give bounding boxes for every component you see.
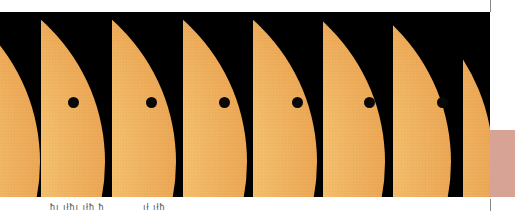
page-divider-line-bottom: [490, 199, 491, 211]
transit-frame-7: [393, 12, 463, 197]
venus-disk: [68, 97, 79, 108]
sun-disk: [112, 12, 176, 197]
sun-disk: [463, 12, 490, 197]
sun-disk: [0, 12, 40, 197]
caption-2: ıł ıłħ: [143, 203, 166, 211]
venus-disk: [364, 97, 375, 108]
transit-photo-strip: [0, 12, 490, 197]
transit-frame-8: [463, 12, 490, 197]
sun-disk: [323, 12, 385, 197]
sun-disk: [253, 12, 317, 197]
transit-frame-6: [323, 12, 393, 197]
transit-frame-4: [183, 12, 253, 197]
adjacent-image-edge: [490, 130, 515, 197]
sun-disk: [183, 12, 247, 197]
page-divider-line: [490, 0, 491, 12]
venus-disk: [292, 97, 303, 108]
transit-frame-5: [253, 12, 323, 197]
caption-1: ħı ıłħı ıłħ ħ: [50, 203, 105, 211]
transit-frame-2: [41, 12, 112, 197]
transit-frame-3: [112, 12, 183, 197]
venus-disk: [219, 97, 230, 108]
venus-disk: [146, 97, 157, 108]
transit-frame-1: [0, 12, 41, 197]
venus-disk: [437, 97, 448, 108]
